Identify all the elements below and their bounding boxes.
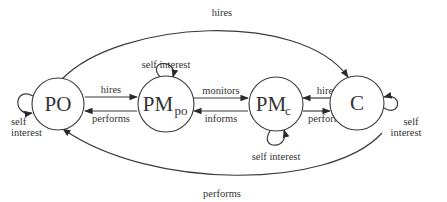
edge-label-pmc-informs-pmpo: informs bbox=[205, 113, 238, 124]
node-sub-pm-po: po bbox=[175, 103, 188, 118]
edge-label-po-hires-c: hires bbox=[212, 7, 232, 18]
stakeholder-relationship-diagram: hires performs hires performs monitors i… bbox=[0, 0, 447, 202]
self-loop-label-pmpo: self interest bbox=[142, 59, 191, 70]
edge-po-hires-c bbox=[62, 31, 348, 79]
node-pm-po: PM po bbox=[138, 76, 194, 132]
edge-label-po-hires-pmpo: hires bbox=[101, 84, 121, 95]
self-loop-label-c-line1: self bbox=[403, 116, 419, 127]
node-c: C bbox=[330, 76, 384, 130]
node-sub-pm-c: c bbox=[285, 103, 291, 118]
node-label-pm-po: PM bbox=[143, 92, 174, 116]
self-loop-po bbox=[18, 94, 33, 113]
node-label-c: C bbox=[350, 91, 364, 115]
edge-label-pmpo-monitors-pmc: monitors bbox=[202, 85, 239, 96]
self-loop-label-c-line2: interest bbox=[391, 127, 422, 138]
self-loop-c bbox=[384, 96, 398, 110]
self-loop-label-po-line1: self bbox=[11, 116, 27, 127]
edge-c-performs-po bbox=[63, 129, 382, 175]
self-loop-label-pmc: self interest bbox=[252, 151, 301, 162]
edge-label-c-performs-po: performs bbox=[203, 188, 241, 199]
self-loop-pmc bbox=[267, 130, 284, 145]
self-loop-label-po-line2: interest bbox=[11, 127, 42, 138]
node-label-po: PO bbox=[45, 92, 72, 116]
edge-label-pmpo-performs-po: performs bbox=[92, 113, 130, 124]
node-po: PO bbox=[32, 78, 84, 130]
node-label-pm-c: PM bbox=[256, 92, 287, 116]
node-pm-c: PM c bbox=[249, 77, 303, 131]
